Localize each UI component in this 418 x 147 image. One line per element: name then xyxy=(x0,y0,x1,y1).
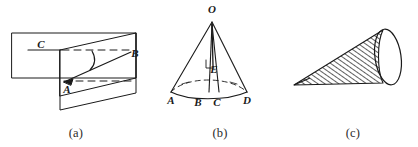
figure-a-label-a: A xyxy=(62,83,70,95)
figure-b-label-a: A xyxy=(166,94,174,106)
base-front-arc-a-d xyxy=(171,92,247,99)
figure-a-caption: (a) xyxy=(0,126,152,141)
figure-b-label-e: E xyxy=(209,63,217,75)
figure-b-drawing: O E A B C D xyxy=(152,0,288,147)
figure-b-panel: O E A B C D (b) xyxy=(152,0,288,147)
figure-b-label-d: D xyxy=(242,94,251,106)
slant-edge-o-d xyxy=(212,22,247,92)
figure-c-caption: (c) xyxy=(288,126,418,141)
cone-body-hatched xyxy=(294,30,383,85)
figure-board: C B A (a) xyxy=(0,0,418,147)
dihedral-angle-arc xyxy=(90,51,94,70)
figure-b-caption: (b) xyxy=(152,126,288,141)
figure-a-label-b: B xyxy=(130,47,138,59)
figure-b-label-c: C xyxy=(213,96,221,108)
figure-b-label-b: B xyxy=(193,96,201,108)
figure-c-panel: (c) xyxy=(288,0,418,147)
slanted-plane-parallelogram xyxy=(60,33,136,96)
axis-o-to-b xyxy=(209,24,212,92)
figure-a-drawing: C B A xyxy=(0,0,152,147)
figure-a-panel: C B A (a) xyxy=(0,0,152,147)
figure-c-drawing xyxy=(288,0,418,147)
slanted-plane-lower-extension xyxy=(60,33,136,110)
figure-b-label-o: O xyxy=(208,3,216,15)
horizontal-plane-rect xyxy=(12,33,136,78)
figure-a-label-c: C xyxy=(37,38,45,50)
